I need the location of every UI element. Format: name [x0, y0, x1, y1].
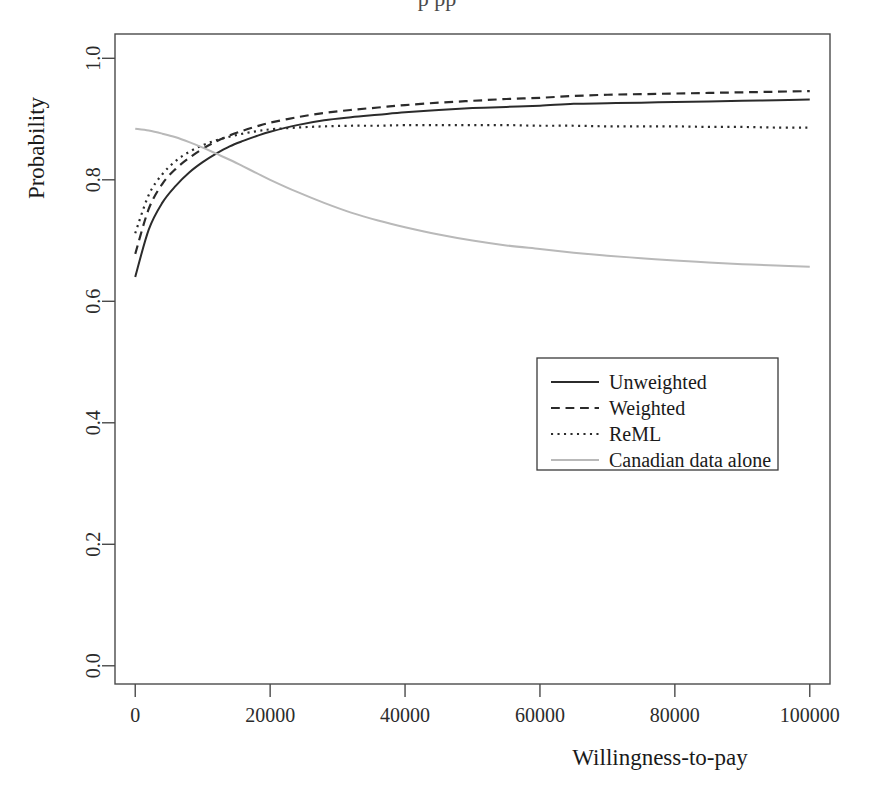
series-line-weighted: [135, 91, 810, 254]
y-tick-label: 1.0: [82, 46, 104, 71]
cropped-title-text: p pp: [418, 0, 457, 11]
series-line-canadian-data-alone: [135, 129, 810, 267]
x-tick-label: 100000: [780, 704, 840, 726]
x-tick-label: 60000: [515, 704, 565, 726]
x-tick-label: 80000: [650, 704, 700, 726]
x-axis-ticks: 020000400006000080000100000: [130, 684, 840, 726]
legend-item-label: Unweighted: [609, 371, 707, 394]
series-line-reml: [135, 125, 810, 233]
x-tick-label: 0: [130, 704, 140, 726]
probability-vs-wtp-chart: p pp 020000400006000080000100000 0.00.20…: [0, 0, 875, 800]
legend[interactable]: UnweightedWeightedReMLCanadian data alon…: [537, 358, 778, 471]
cropped-title-fragment: p pp: [418, 0, 457, 11]
y-axis-ticks: 0.00.20.40.60.81.0: [82, 46, 115, 678]
x-tick-label: 40000: [380, 704, 430, 726]
y-tick-label: 0.2: [82, 532, 104, 557]
figure-root: p pp 020000400006000080000100000 0.00.20…: [0, 0, 875, 800]
legend-item-label: Weighted: [609, 397, 685, 420]
y-tick-label: 0.4: [82, 410, 104, 435]
legend-item-label: Canadian data alone: [609, 449, 771, 471]
y-axis-title: Probability: [24, 96, 49, 199]
y-tick-label: 0.6: [82, 289, 104, 314]
legend-item-label: ReML: [609, 423, 661, 445]
y-tick-label: 0.0: [82, 653, 104, 678]
y-tick-label: 0.8: [82, 167, 104, 192]
series-layer: [135, 91, 810, 277]
x-tick-label: 20000: [245, 704, 295, 726]
x-axis-title: Willingness-to-pay: [572, 745, 748, 770]
